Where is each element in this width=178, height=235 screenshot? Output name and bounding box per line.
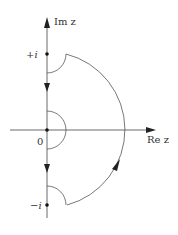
real-axis-arrowhead-icon bbox=[146, 127, 156, 133]
indent-arc-minus-i bbox=[47, 186, 66, 205]
imag-axis-label: Im z bbox=[54, 16, 76, 27]
minus-i-label: −i bbox=[30, 200, 42, 211]
real-axis-label: Re z bbox=[147, 134, 169, 145]
large-arc bbox=[66, 54, 125, 205]
down-arrow-lower-icon bbox=[44, 164, 50, 173]
indent-arc-plus-i bbox=[47, 54, 66, 73]
point-minus-i bbox=[45, 203, 49, 207]
imag-axis-arrowhead-icon bbox=[44, 17, 50, 28]
point-plus-i bbox=[45, 52, 49, 56]
arc-direction-arrow-icon bbox=[112, 159, 120, 171]
contour-diagram: Im z Re z +i 0 −i bbox=[0, 0, 178, 235]
down-arrow-upper-icon bbox=[44, 83, 50, 92]
origin-label: 0 bbox=[37, 136, 43, 147]
point-origin bbox=[45, 128, 49, 132]
plus-i-label: +i bbox=[26, 49, 38, 60]
